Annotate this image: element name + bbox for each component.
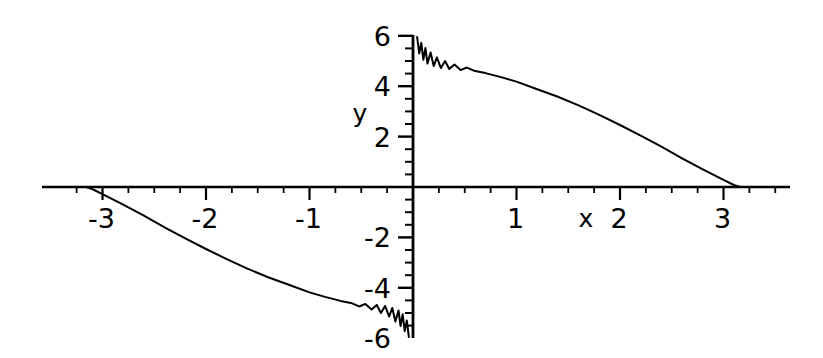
y-tick-label: 4 xyxy=(374,71,391,102)
x-tick-label: 3 xyxy=(714,203,731,234)
curve-lower-branch xyxy=(86,187,409,337)
axes-group xyxy=(42,35,790,338)
y-tick-label: 2 xyxy=(374,122,391,153)
x-tick-label: -1 xyxy=(295,203,322,234)
y-axis-name-label: y xyxy=(353,99,368,128)
y-tick-label: 6 xyxy=(374,21,391,52)
axis-names-group: yx xyxy=(353,99,594,233)
figure-canvas: -3-2-1123642-2-4-6 yx xyxy=(0,0,823,358)
x-axis-name-label: x xyxy=(579,204,594,233)
x-tick-label: 2 xyxy=(610,203,627,234)
x-tick-label: -3 xyxy=(88,203,115,234)
x-tick-label: 1 xyxy=(507,203,524,234)
y-tick-label: -6 xyxy=(364,323,391,354)
x-tick-label: -2 xyxy=(192,203,219,234)
y-tick-label: -2 xyxy=(364,222,391,253)
tick-marks-group xyxy=(77,36,776,326)
y-tick-label: -4 xyxy=(364,273,391,304)
plot-area: -3-2-1123642-2-4-6 yx xyxy=(0,0,823,358)
curve-upper-branch xyxy=(417,37,740,187)
